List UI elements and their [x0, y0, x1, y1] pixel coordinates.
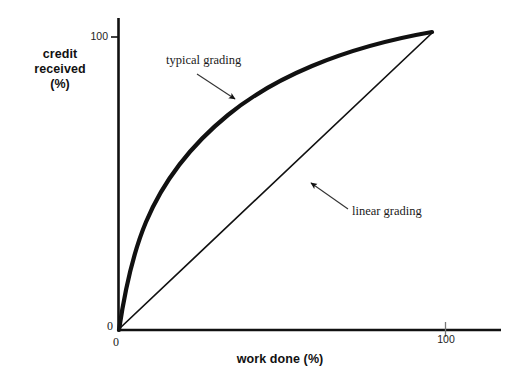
arrow-typical-grading — [197, 74, 235, 99]
x-axis-origin-label: 0 — [113, 335, 119, 350]
y-axis-title: credit received (%) — [14, 47, 106, 92]
annotation-linear-grading: linear grading — [352, 204, 422, 219]
x-axis-title: work done (%) — [200, 352, 360, 367]
y-axis-origin-label: 0 — [107, 319, 113, 334]
arrow-linear-grading — [311, 183, 348, 209]
annotation-typical-grading: typical grading — [166, 53, 241, 68]
y-tick-label-100: 100 — [84, 30, 108, 42]
x-tick-label-100: 100 — [432, 333, 460, 345]
chart-figure: credit received (%) work done (%) 100 10… — [0, 0, 522, 380]
